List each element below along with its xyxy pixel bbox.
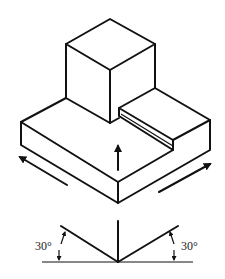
right-angle-arrow-up-icon [170, 232, 174, 244]
left-axis-line [61, 226, 118, 262]
left-angle-label: 30° [35, 239, 52, 253]
step-block [119, 88, 210, 150]
right-arrow-icon [159, 164, 210, 192]
isometric-diagram: 30° 30° [0, 0, 225, 279]
left-arrow-icon [20, 157, 67, 185]
top-cube [66, 19, 155, 123]
right-angle-label: 30° [181, 239, 198, 253]
left-angle-arrow-up-icon [61, 232, 65, 244]
right-axis-line [118, 226, 178, 262]
base-slab [21, 98, 210, 203]
angle-diagram: 30° 30° [35, 221, 198, 262]
